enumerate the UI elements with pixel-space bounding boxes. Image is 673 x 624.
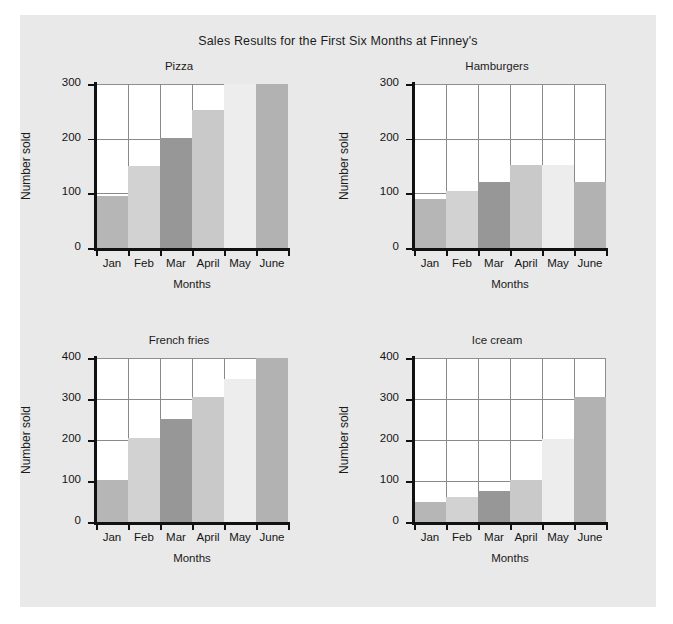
x-axis-title: Months [414,278,606,290]
x-tick-label: May [224,531,256,543]
x-tick-label: Feb [446,257,478,269]
y-tick-label: 100 [40,185,86,197]
bar-june [256,358,288,522]
y-tick-label: 300 [40,76,86,88]
y-tick-mark [88,248,95,250]
y-tick-label: 0 [40,514,86,526]
subplot-hamburgers: Hamburgers 0100200300JanFebMarAprilMayJu… [338,59,656,333]
x-axis-title: Months [96,552,288,564]
x-tick-label: Jan [96,257,128,269]
subplot-pizza: Pizza 0100200300JanFebMarAprilMayJune Mo… [20,59,338,333]
x-tick-mark [542,524,544,530]
y-axis-title: Number sold [337,132,351,200]
x-tick-label: Mar [160,531,192,543]
x-tick-mark [224,524,226,530]
x-tick-label: June [574,257,606,269]
y-tick-mark [406,139,413,141]
x-tick-label: June [574,531,606,543]
y-tick-mark [406,399,413,401]
bar-mar [478,182,510,248]
y-tick-mark [406,358,413,360]
y-tick-label: 0 [358,240,404,252]
x-tick-mark [128,250,130,256]
y-tick-mark [88,481,95,483]
x-tick-mark [160,250,162,256]
x-tick-mark [192,250,194,256]
x-tick-label: Jan [414,257,446,269]
bar-june [256,84,288,248]
y-axis-title: Number sold [337,406,351,474]
y-tick-label: 300 [358,391,404,403]
bar-jan [96,480,128,522]
bar-april [510,480,542,522]
x-tick-mark [288,524,290,530]
y-axis-title: Number sold [19,132,33,200]
bar-may [224,84,256,248]
bars-layer [414,358,606,522]
x-tick-mark [606,250,608,256]
y-tick-mark [406,440,413,442]
x-tick-mark [574,250,576,256]
y-tick-label: 0 [358,514,404,526]
y-tick-label: 0 [40,240,86,252]
bar-may [224,379,256,523]
bar-mar [160,419,192,522]
x-tick-mark [96,250,98,256]
subplot-french-fries: French fries 0100200300400JanFebMarApril… [20,333,338,607]
y-tick-mark [406,248,413,250]
y-tick-mark [88,358,95,360]
bar-mar [160,138,192,248]
y-tick-mark [406,193,413,195]
subplot-title: Pizza [20,60,338,72]
x-tick-label: Jan [414,531,446,543]
bar-feb [446,191,478,248]
y-tick-mark [88,139,95,141]
x-tick-mark [510,250,512,256]
x-tick-label: June [256,257,288,269]
figure-title: Sales Results for the First Six Months a… [20,34,656,48]
bar-june [574,397,606,522]
subplot-title: French fries [20,334,338,346]
y-tick-label: 100 [40,473,86,485]
y-tick-label: 200 [358,432,404,444]
x-tick-label: Feb [128,531,160,543]
x-tick-mark [192,524,194,530]
bars-layer [414,84,606,248]
y-axis-line [94,82,97,250]
x-tick-mark [256,250,258,256]
x-axis-title: Months [96,278,288,290]
x-tick-label: Mar [160,257,192,269]
x-tick-mark [478,250,480,256]
y-tick-label: 400 [40,350,86,362]
bar-may [542,439,574,522]
bars-layer [96,84,288,248]
y-tick-label: 300 [358,76,404,88]
x-tick-mark [478,524,480,530]
figure-panel: Sales Results for the First Six Months a… [20,15,656,607]
y-tick-mark [88,399,95,401]
subplot-grid: Pizza 0100200300JanFebMarAprilMayJune Mo… [20,59,656,607]
x-tick-label: Mar [478,531,510,543]
bar-mar [478,491,510,522]
y-tick-mark [88,84,95,86]
bar-april [192,397,224,522]
y-tick-mark [88,522,95,524]
y-tick-label: 200 [40,432,86,444]
page-canvas: Sales Results for the First Six Months a… [0,0,673,624]
x-tick-label: April [510,531,542,543]
subplot-ice-cream: Ice cream 0100200300400JanFebMarAprilMay… [338,333,656,607]
x-tick-mark [510,524,512,530]
y-tick-label: 400 [358,350,404,362]
bar-jan [96,196,128,248]
bar-april [192,110,224,248]
y-tick-mark [406,84,413,86]
y-tick-label: 300 [40,391,86,403]
x-tick-mark [446,250,448,256]
y-tick-label: 200 [358,131,404,143]
y-tick-label: 100 [358,473,404,485]
y-tick-mark [406,522,413,524]
x-tick-mark [256,524,258,530]
x-tick-mark [414,524,416,530]
y-tick-label: 100 [358,185,404,197]
x-tick-mark [414,250,416,256]
